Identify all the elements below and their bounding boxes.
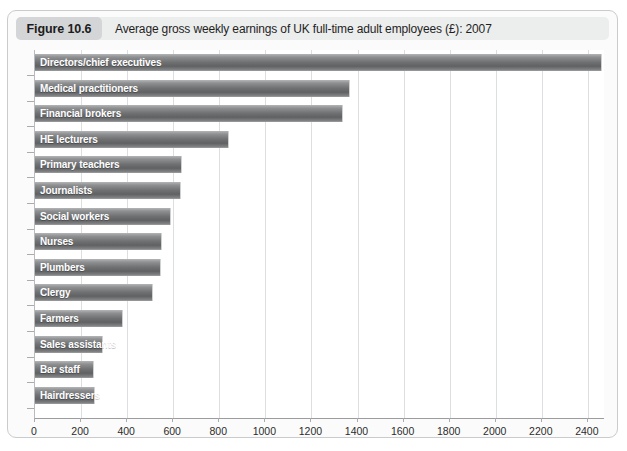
x-axis-tick xyxy=(34,418,35,422)
x-axis-tick xyxy=(587,418,588,422)
gridline xyxy=(588,50,589,418)
x-axis-tick xyxy=(126,418,127,422)
chart-plot-area: Directors/chief executivesMedical practi… xyxy=(34,50,604,418)
x-axis-tick xyxy=(495,418,496,422)
gridline xyxy=(450,50,451,418)
x-axis-line xyxy=(34,418,604,419)
y-axis-tick xyxy=(27,101,34,102)
x-axis-label: 400 xyxy=(117,425,135,437)
y-axis-tick xyxy=(27,357,34,358)
x-axis-label: 1400 xyxy=(345,425,368,437)
x-axis-tick xyxy=(264,418,265,422)
y-axis-tick xyxy=(27,152,34,153)
x-axis-label: 1800 xyxy=(437,425,460,437)
figure-frame: Figure 10.6 Average gross weekly earning… xyxy=(7,10,618,438)
y-axis-tick xyxy=(27,254,34,255)
chart-bar[interactable] xyxy=(35,156,182,173)
figure-caption-text: Average gross weekly earnings of UK full… xyxy=(102,22,609,36)
x-axis-label: 2000 xyxy=(483,425,506,437)
x-axis-label: 800 xyxy=(210,425,228,437)
chart-plot-panel: Directors/chief executivesMedical practi… xyxy=(16,44,609,433)
x-axis-tick xyxy=(449,418,450,422)
figure-caption-bar: Figure 10.6 Average gross weekly earning… xyxy=(16,17,609,40)
gridline xyxy=(358,50,359,418)
y-axis-tick xyxy=(27,126,34,127)
x-axis-tick xyxy=(172,418,173,422)
x-axis-tick xyxy=(80,418,81,422)
y-axis-tick xyxy=(27,177,34,178)
x-axis-label: 200 xyxy=(71,425,89,437)
x-axis-label: 2400 xyxy=(575,425,598,437)
chart-bar[interactable] xyxy=(35,387,95,404)
gridline xyxy=(542,50,543,418)
chart-bar[interactable] xyxy=(35,284,153,301)
figure-number-badge: Figure 10.6 xyxy=(16,17,102,40)
x-axis-tick xyxy=(218,418,219,422)
y-axis-tick xyxy=(27,229,34,230)
y-axis-tick xyxy=(27,305,34,306)
chart-bar[interactable] xyxy=(35,233,162,250)
x-axis-label: 0 xyxy=(31,425,37,437)
x-axis-tick xyxy=(541,418,542,422)
chart-bar[interactable] xyxy=(35,131,229,148)
chart-bar[interactable] xyxy=(35,105,343,122)
y-axis-tick xyxy=(27,203,34,204)
figure-screenshot: Figure 10.6 Average gross weekly earning… xyxy=(0,0,627,451)
y-axis-tick xyxy=(27,331,34,332)
chart-bar[interactable] xyxy=(35,361,94,378)
y-axis-tick xyxy=(27,75,34,76)
chart-bar[interactable] xyxy=(35,80,350,97)
x-axis-label: 1600 xyxy=(391,425,414,437)
x-axis-tick xyxy=(310,418,311,422)
chart-bar[interactable] xyxy=(35,336,103,353)
y-axis-tick xyxy=(27,280,34,281)
gridline xyxy=(404,50,405,418)
chart-bar[interactable] xyxy=(35,54,602,71)
x-axis-label: 600 xyxy=(163,425,181,437)
gridline xyxy=(496,50,497,418)
y-axis-tick xyxy=(27,408,34,409)
x-axis-label: 1200 xyxy=(299,425,322,437)
chart-bar[interactable] xyxy=(35,182,181,199)
x-axis-tick xyxy=(357,418,358,422)
x-axis-label: 1000 xyxy=(253,425,276,437)
chart-bar[interactable] xyxy=(35,310,123,327)
chart-bar[interactable] xyxy=(35,208,171,225)
x-axis-tick xyxy=(403,418,404,422)
chart-bar[interactable] xyxy=(35,259,161,276)
y-axis-tick xyxy=(27,382,34,383)
x-axis-label: 2200 xyxy=(529,425,552,437)
